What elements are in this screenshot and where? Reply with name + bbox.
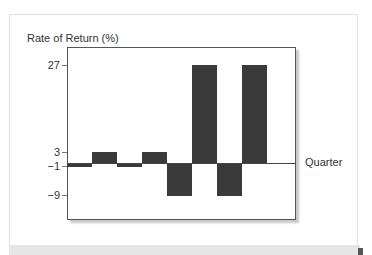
bar-quarter-6 (192, 65, 217, 163)
y-tick-3: 3 (30, 146, 60, 158)
bar-quarter-4 (142, 152, 167, 163)
y-axis-label: Rate of Return (%) (27, 32, 119, 44)
bar-quarter-5 (167, 163, 192, 196)
bar-quarter-2 (92, 152, 117, 163)
x-axis-label: Quarter (305, 156, 342, 168)
y-tickmark-27 (62, 65, 67, 66)
y-tickmark-neg9 (62, 195, 67, 196)
corner-mark (358, 248, 363, 255)
bar-quarter-7 (217, 163, 242, 196)
x-axis-line (67, 163, 296, 164)
y-tick-neg9: −9 (30, 189, 60, 201)
y-tick-neg1: −1 (30, 160, 60, 172)
y-tick-27: 27 (30, 59, 60, 71)
y-tickmark-3 (62, 152, 67, 153)
card-bottom-band (9, 245, 360, 255)
bar-quarter-8 (242, 65, 267, 163)
